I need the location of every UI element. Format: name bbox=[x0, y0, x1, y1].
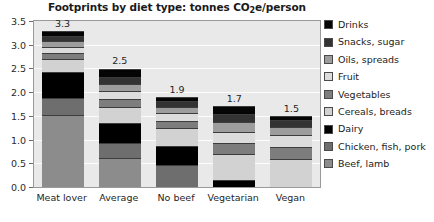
bar-segment[interactable] bbox=[156, 121, 198, 129]
bar-group[interactable]: 3.3 bbox=[42, 21, 84, 187]
y-tick-label: 3.5 bbox=[11, 16, 26, 27]
x-tick-label: Vegetarian bbox=[205, 192, 262, 203]
chart-title-subscript: 2 bbox=[250, 6, 255, 15]
bar-segment[interactable] bbox=[213, 122, 255, 131]
bar-segment[interactable] bbox=[213, 180, 255, 187]
legend-label: Snacks, sugar bbox=[338, 37, 404, 47]
bar-segment[interactable] bbox=[42, 47, 84, 54]
x-tick-label: Meat lover bbox=[33, 192, 90, 203]
legend-swatch-icon bbox=[324, 38, 333, 47]
bar-segment[interactable] bbox=[156, 113, 198, 121]
bar-segment[interactable] bbox=[213, 114, 255, 122]
bar-segment[interactable] bbox=[156, 146, 198, 165]
y-tick-label: 2.5 bbox=[11, 63, 26, 74]
legend-swatch-icon bbox=[324, 125, 333, 134]
legend-swatch-icon bbox=[324, 142, 333, 151]
x-tick-label: Average bbox=[90, 192, 147, 203]
bar-total-label: 1.7 bbox=[213, 93, 255, 104]
bar-group[interactable]: 1.9 bbox=[156, 21, 198, 187]
legend-item[interactable]: Vegetables bbox=[324, 86, 434, 103]
y-tick-label: 3.0 bbox=[11, 39, 26, 50]
legend-item[interactable]: Cereals, breads bbox=[324, 103, 434, 120]
bar-segment[interactable] bbox=[42, 98, 84, 115]
y-tick-label: 2.0 bbox=[11, 87, 26, 98]
bar-segment[interactable] bbox=[99, 91, 141, 99]
bar-segment[interactable] bbox=[99, 143, 141, 157]
chart-title: Footprints by diet type: tonnes CO2e/per… bbox=[34, 1, 320, 13]
legend-label: Oils, spreads bbox=[338, 55, 399, 65]
legend-item[interactable]: Snacks, sugar bbox=[324, 33, 434, 50]
legend-swatch-icon bbox=[324, 72, 333, 81]
legend-label: Dairy bbox=[338, 124, 363, 134]
bar-segment[interactable] bbox=[99, 123, 141, 144]
bar-stack[interactable] bbox=[42, 31, 84, 187]
legend-label: Chicken, fish, pork bbox=[338, 142, 426, 152]
bar-segment[interactable] bbox=[99, 107, 141, 123]
bar-stack[interactable] bbox=[99, 69, 141, 188]
bar-segment[interactable] bbox=[270, 120, 312, 127]
bar-segment[interactable] bbox=[270, 147, 312, 159]
bar-total-label: 1.5 bbox=[270, 103, 312, 114]
bar-segment[interactable] bbox=[270, 159, 312, 187]
x-tick-label: Vegan bbox=[262, 192, 319, 203]
bar-segment[interactable] bbox=[99, 77, 141, 85]
bar-segment[interactable] bbox=[270, 127, 312, 135]
bar-group[interactable]: 1.5 bbox=[270, 21, 312, 187]
bar-segment[interactable] bbox=[156, 128, 198, 146]
legend-item[interactable]: Chicken, fish, pork bbox=[324, 138, 434, 155]
legend-item[interactable]: Fruit bbox=[324, 68, 434, 85]
legend-label: Cereals, breads bbox=[338, 107, 412, 117]
bar-segment[interactable] bbox=[213, 106, 255, 114]
bar-segment[interactable] bbox=[156, 165, 198, 187]
y-tick-label: 0.5 bbox=[11, 158, 26, 169]
y-axis: 0.00.51.01.52.02.53.03.5 bbox=[0, 20, 33, 188]
chart-root: Footprints by diet type: tonnes CO2e/per… bbox=[0, 0, 434, 222]
bar-total-label: 2.5 bbox=[99, 55, 141, 66]
bar-segment[interactable] bbox=[213, 143, 255, 154]
bar-segment[interactable] bbox=[99, 158, 141, 187]
legend-swatch-icon bbox=[324, 55, 333, 64]
legend-label: Beef, lamb bbox=[338, 159, 389, 169]
legend-swatch-icon bbox=[324, 107, 333, 116]
legend-item[interactable]: Beef, lamb bbox=[324, 155, 434, 172]
chart-legend: DrinksSnacks, sugarOils, spreadsFruitVeg… bbox=[324, 16, 434, 173]
legend-swatch-icon bbox=[324, 20, 333, 29]
legend-swatch-icon bbox=[324, 159, 333, 168]
x-axis: Meat loverAverageNo beefVegetarianVegan bbox=[33, 189, 321, 211]
bar-total-label: 3.3 bbox=[42, 18, 84, 29]
y-tick-label: 1.5 bbox=[11, 110, 26, 121]
bar-stack[interactable] bbox=[156, 97, 198, 187]
bar-group[interactable]: 2.5 bbox=[99, 21, 141, 187]
legend-label: Vegetables bbox=[338, 90, 391, 100]
legend-label: Fruit bbox=[338, 72, 359, 82]
bar-segment[interactable] bbox=[213, 154, 255, 181]
legend-item[interactable]: Oils, spreads bbox=[324, 51, 434, 68]
bar-segment[interactable] bbox=[42, 59, 84, 71]
bar-segment[interactable] bbox=[99, 99, 141, 107]
y-tick-label: 1.0 bbox=[11, 134, 26, 145]
legend-item[interactable]: Drinks bbox=[324, 16, 434, 33]
chart-title-prefix: Footprints by diet type: tonnes CO bbox=[48, 1, 250, 13]
bar-stack[interactable] bbox=[270, 116, 312, 187]
bar-segment[interactable] bbox=[42, 115, 84, 187]
bar-segment[interactable] bbox=[42, 72, 84, 98]
bar-stack[interactable] bbox=[213, 106, 255, 187]
bar-segment[interactable] bbox=[270, 135, 312, 147]
legend-label: Drinks bbox=[338, 20, 368, 30]
y-tick-label: 0.0 bbox=[11, 182, 26, 193]
bar-group[interactable]: 1.7 bbox=[213, 21, 255, 187]
bar-segment[interactable] bbox=[213, 132, 255, 143]
legend-item[interactable]: Dairy bbox=[324, 120, 434, 137]
bar-segment[interactable] bbox=[99, 69, 141, 77]
x-tick-label: No beef bbox=[147, 192, 204, 203]
chart-title-suffix: e/person bbox=[255, 1, 306, 13]
bar-total-label: 1.9 bbox=[156, 84, 198, 95]
bar-segment[interactable] bbox=[99, 84, 141, 91]
legend-swatch-icon bbox=[324, 90, 333, 99]
plot-area: 3.32.51.91.71.5 bbox=[33, 20, 321, 188]
